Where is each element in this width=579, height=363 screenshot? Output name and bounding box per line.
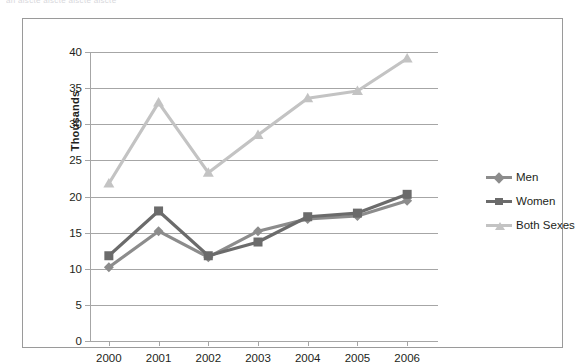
data-point-marker: [353, 209, 362, 218]
legend-item-women[interactable]: Women: [486, 189, 579, 213]
series-men: [104, 196, 412, 272]
data-point-marker: [154, 206, 163, 215]
x-axis-tick-label: 2006: [394, 352, 420, 363]
data-point-marker: [402, 53, 413, 63]
x-axis-tick-label: 2001: [146, 352, 172, 363]
data-point-marker: [403, 190, 412, 199]
legend-item-label: Both Sexes: [516, 219, 575, 231]
x-axis-tick: [159, 341, 160, 346]
y-axis-tick: [85, 341, 90, 342]
y-axis-tick-label: 30: [69, 118, 82, 130]
x-axis-tick: [208, 341, 209, 346]
legend-item-men[interactable]: Men: [486, 165, 579, 189]
y-axis-tick-label: 10: [69, 263, 82, 275]
x-axis-tick: [407, 341, 408, 346]
x-axis-tick: [258, 341, 259, 346]
data-point-marker: [303, 212, 312, 221]
chart-legend: MenWomenBoth Sexes: [486, 165, 579, 237]
y-axis-tick-label: 25: [69, 154, 82, 166]
top-clipped-text: an aiscte aiscte aiscte aiscte: [6, 0, 306, 7]
x-axis-tick: [357, 341, 358, 346]
data-point-marker: [104, 251, 113, 260]
series-women: [104, 190, 411, 260]
plot-area: 0510152025303540 20002001200220032004200…: [90, 52, 438, 341]
y-axis-tick-label: 35: [69, 82, 82, 94]
series-layer: [90, 52, 438, 341]
data-point-marker: [204, 251, 213, 260]
x-axis-tick: [308, 341, 309, 346]
data-point-marker: [254, 238, 263, 247]
x-axis-tick-label: 2000: [96, 352, 122, 363]
gridline: [90, 341, 438, 342]
x-axis-tick: [109, 341, 110, 346]
y-axis-tick-label: 40: [69, 46, 82, 58]
y-axis-tick-label: 15: [69, 227, 82, 239]
series-line: [109, 194, 407, 255]
legend-item-both-sexes[interactable]: Both Sexes: [486, 213, 579, 237]
y-axis-tick-label: 5: [76, 299, 82, 311]
x-axis-tick-label: 2004: [295, 352, 321, 363]
x-axis-tick-label: 2002: [195, 352, 221, 363]
legend-item-label: Men: [516, 171, 538, 183]
legend-item-label: Women: [516, 195, 555, 207]
legend-swatch-icon: [486, 219, 512, 231]
series-both-sexes: [103, 53, 412, 187]
y-axis-tick-label: 0: [76, 335, 82, 347]
series-line: [109, 59, 407, 184]
legend-swatch-icon: [486, 195, 512, 207]
x-axis-tick-label: 2005: [345, 352, 371, 363]
x-axis-tick-label: 2003: [245, 352, 271, 363]
chart-frame: Thousands 0510152025303540 2000200120022…: [22, 18, 563, 348]
y-axis-tick-label: 20: [69, 191, 82, 203]
data-point-marker: [153, 97, 164, 107]
legend-swatch-icon: [486, 171, 512, 183]
